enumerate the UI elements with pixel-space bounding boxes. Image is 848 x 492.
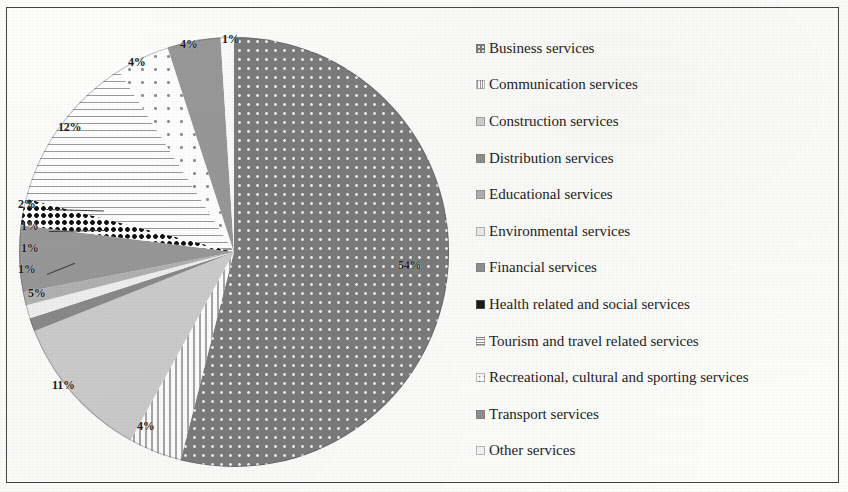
pie-label-business: 54% [398, 258, 421, 273]
legend-item-health-related-and-social-services[interactable]: Health related and social services [476, 286, 838, 323]
legend-label-business-services: Business services [489, 41, 594, 56]
legend-label-communication-services: Communication services [489, 77, 638, 92]
legend-item-recreational-cultural-and-sporting-services[interactable]: Recreational, cultural and sporting serv… [476, 359, 838, 396]
legend-label-educational-services: Educational services [489, 187, 613, 202]
legend-swatch-icon-other-services [476, 446, 485, 455]
pie-label-health: 2% [18, 197, 36, 212]
legend-item-business-services[interactable]: Business services [476, 30, 838, 67]
legend-swatch-icon-educational-services [476, 190, 485, 199]
legend-swatch-icon-distribution-services [476, 154, 485, 163]
legend-swatch-icon-construction-services [476, 117, 485, 126]
pie-chart [19, 37, 449, 467]
pie-label-distribution: 1% [21, 219, 39, 234]
pie-slices [19, 37, 449, 467]
legend-label-tourism-and-travel-related-services: Tourism and travel related services [489, 334, 699, 349]
legend-item-other-services[interactable]: Other services [476, 433, 838, 470]
pie-label-tourism: 12% [58, 120, 81, 135]
legend-item-educational-services[interactable]: Educational services [476, 176, 838, 213]
legend-label-recreational-cultural-and-sporting-services: Recreational, cultural and sporting serv… [489, 370, 749, 385]
legend-swatch-icon-tourism-and-travel-related-services [476, 337, 485, 346]
pie-label-other: 1% [222, 32, 240, 47]
legend-label-distribution-services: Distribution services [489, 151, 614, 166]
legend-swatch-icon-health-related-and-social-services [476, 300, 485, 309]
legend-label-other-services: Other services [489, 443, 575, 458]
legend-swatch-icon-environmental-services [476, 227, 485, 236]
pie-label-communication: 4% [137, 419, 155, 434]
legend-item-financial-services[interactable]: Financial services [476, 250, 838, 287]
pie-label-recreational: 4% [128, 55, 146, 70]
legend-label-health-related-and-social-services: Health related and social services [489, 297, 690, 312]
pie-label-environmental: 1% [18, 262, 36, 277]
chart-legend: Business services Communication services… [476, 30, 838, 469]
legend-label-financial-services: Financial services [489, 260, 597, 275]
legend-item-environmental-services[interactable]: Environmental services [476, 213, 838, 250]
pie-chart-figure: 54% 1% 4% 4% 12% 2% 1% 1% 1% 5% 11% 4% B… [0, 0, 848, 492]
legend-item-tourism-and-travel-related-services[interactable]: Tourism and travel related services [476, 323, 838, 360]
legend-swatch-icon-financial-services [476, 263, 485, 272]
legend-swatch-icon-transport-services [476, 410, 485, 419]
pie-label-educational: 1% [21, 241, 39, 256]
pie-label-construction: 11% [52, 378, 75, 393]
legend-item-transport-services[interactable]: Transport services [476, 396, 838, 433]
legend-item-communication-services[interactable]: Communication services [476, 67, 838, 104]
pie-label-transport: 4% [180, 37, 198, 52]
legend-swatch-icon-communication-services [476, 80, 485, 89]
legend-item-distribution-services[interactable]: Distribution services [476, 140, 838, 177]
legend-swatch-icon-recreational-cultural-and-sporting-services [476, 373, 485, 382]
legend-label-construction-services: Construction services [489, 114, 619, 129]
legend-label-transport-services: Transport services [489, 407, 599, 422]
legend-label-environmental-services: Environmental services [489, 224, 630, 239]
legend-item-construction-services[interactable]: Construction services [476, 103, 838, 140]
pie-label-financial: 5% [28, 286, 46, 301]
legend-swatch-icon-business-services [476, 44, 485, 53]
